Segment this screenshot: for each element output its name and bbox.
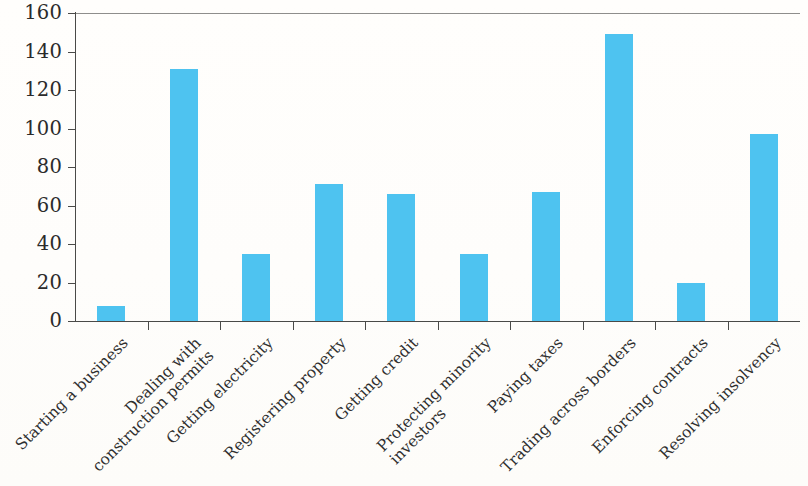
y-axis-tick	[68, 206, 76, 207]
x-axis-label-line: Resolving insolvency	[656, 334, 785, 463]
bar-chart: 020406080100120140160 Starting a busines…	[0, 0, 808, 486]
y-axis-tick	[68, 52, 76, 53]
y-axis-tick-label: 140	[24, 42, 62, 62]
x-axis-label-line: Trading across borders	[497, 334, 640, 477]
y-axis-tick-label: 120	[24, 80, 62, 100]
x-axis-label-line: Registering property	[220, 334, 349, 463]
bar	[97, 306, 125, 321]
y-axis-tick-label: 60	[37, 196, 62, 216]
y-axis-tick-label: 160	[24, 3, 62, 23]
y-axis-tick	[68, 13, 76, 14]
y-axis-tick	[68, 244, 76, 245]
y-axis-tick	[68, 167, 76, 168]
y-axis-tick-label: 20	[37, 273, 62, 293]
y-axis-tick-label: 80	[37, 157, 62, 177]
y-axis-tick	[68, 283, 76, 284]
y-axis-tick-label: 40	[37, 234, 62, 254]
y-axis-tick	[68, 129, 76, 130]
y-axis-tick-label: 0	[49, 311, 62, 331]
y-axis-tick	[68, 321, 76, 322]
y-axis-tick-label: 100	[24, 119, 62, 139]
y-axis-tick	[68, 90, 76, 91]
x-axis-label-line: Dealing with	[76, 334, 205, 463]
